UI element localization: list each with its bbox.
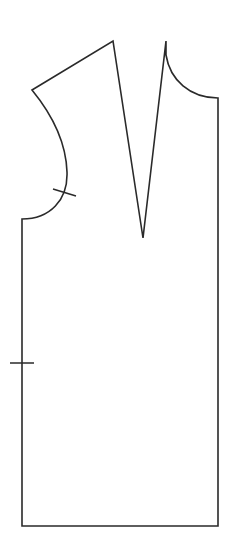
bodice-pattern-diagram	[0, 0, 231, 554]
bodice-outline	[22, 41, 218, 526]
pattern-canvas	[0, 0, 231, 554]
